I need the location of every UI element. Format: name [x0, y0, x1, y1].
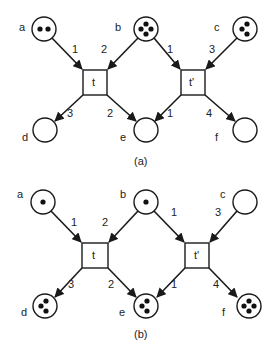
transition-label: t — [92, 249, 95, 261]
arc-weight: 1 — [167, 43, 173, 55]
token — [143, 31, 148, 36]
place-label: b — [120, 188, 126, 200]
token — [138, 26, 143, 31]
place-f — [233, 118, 257, 142]
place-label: a — [17, 188, 24, 200]
arc-weight: 1 — [167, 107, 173, 119]
arc-weight: 3 — [215, 206, 221, 218]
token — [251, 303, 256, 308]
arc-b-t — [108, 38, 138, 69]
arc-weight: 2 — [107, 107, 113, 119]
token — [143, 199, 148, 204]
panel-caption: (a) — [134, 155, 147, 167]
place-label: d — [21, 306, 27, 318]
transition-label: t — [92, 76, 95, 88]
arc-weight: 4 — [213, 278, 219, 290]
arc-weight: 1 — [171, 278, 177, 290]
token — [139, 303, 144, 308]
place-label: d — [22, 131, 28, 143]
token — [43, 308, 48, 313]
arc-b-t2 — [154, 211, 184, 242]
token — [40, 199, 45, 204]
token — [45, 26, 50, 31]
place-label: e — [120, 131, 126, 143]
place-b — [134, 17, 158, 41]
place-label: c — [214, 21, 220, 33]
place-label: a — [19, 21, 26, 33]
token — [246, 298, 251, 303]
arc-weight: 1 — [72, 43, 78, 55]
place-label: b — [115, 21, 121, 33]
arc-weight: 2 — [102, 216, 108, 228]
place-e — [134, 118, 158, 142]
place-c — [233, 190, 257, 214]
token — [43, 298, 48, 303]
place-c — [233, 17, 257, 41]
arc-weight: 3 — [67, 107, 73, 119]
token — [144, 298, 149, 303]
arc-weight: 4 — [206, 107, 212, 119]
token — [37, 26, 42, 31]
place-label: f — [222, 306, 226, 318]
place-label: c — [220, 188, 226, 200]
token — [148, 26, 153, 31]
place-f — [237, 294, 261, 318]
token — [241, 303, 246, 308]
arc-weight: 2 — [101, 43, 107, 55]
arc-weight: 2 — [108, 278, 114, 290]
arc-weight: 1 — [171, 206, 177, 218]
arc-weight: 1 — [71, 216, 77, 228]
panel-a: t t' a b c d e f 1 2 1 3 3 2 1 4 (a) — [19, 17, 257, 167]
token — [144, 308, 149, 313]
place-d — [33, 118, 57, 142]
transition-label: t' — [194, 249, 199, 261]
token — [239, 26, 244, 31]
transition-label: t' — [189, 76, 194, 88]
place-e — [134, 294, 158, 318]
place-a — [32, 17, 56, 41]
panel-b: t t' a b c d e f 1 2 1 3 3 2 1 4 (b) — [17, 188, 261, 340]
arc-weight: 3 — [68, 278, 74, 290]
token — [244, 31, 249, 36]
token — [246, 308, 251, 313]
place-label: e — [119, 306, 125, 318]
panel-caption: (b) — [134, 328, 147, 340]
place-d — [33, 294, 57, 318]
token — [38, 303, 43, 308]
arc-b-t — [109, 211, 138, 242]
petri-net-figure: t t' a b c d e f 1 2 1 3 3 2 1 4 (a) — [0, 0, 279, 354]
token — [143, 21, 148, 26]
place-label: f — [215, 131, 219, 143]
token — [244, 21, 249, 26]
arc-weight: 3 — [209, 43, 215, 55]
